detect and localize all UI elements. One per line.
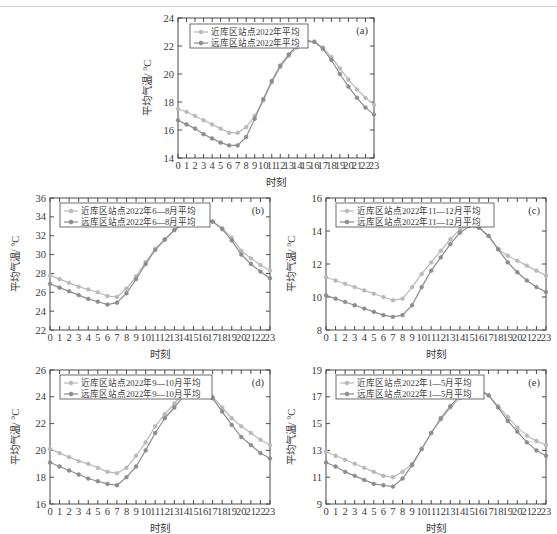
series-marker-far — [134, 465, 138, 469]
series-marker-near — [96, 290, 100, 294]
x-tick-label: 4 — [86, 332, 92, 343]
series-marker-far — [525, 440, 529, 444]
legend-marker-near — [345, 381, 349, 385]
series-marker-near — [535, 439, 539, 443]
series-marker-far — [259, 451, 263, 455]
series-marker-far — [86, 477, 90, 481]
series-marker-far — [220, 227, 224, 231]
series-marker-far — [268, 276, 272, 280]
x-tick-label: 2 — [343, 332, 348, 343]
series-marker-far — [544, 290, 548, 294]
series-marker-far — [230, 239, 234, 243]
series-marker-far — [153, 248, 157, 252]
x-tick-label: 3 — [352, 506, 357, 517]
series-marker-far — [515, 430, 519, 434]
series-line-far — [178, 40, 374, 145]
series-marker-far — [287, 53, 291, 57]
x-tick-label: 8 — [400, 332, 405, 343]
x-tick-label: 3 — [76, 506, 81, 517]
series-marker-far — [353, 474, 357, 478]
y-axis-label: 平均气温/ °C — [9, 409, 21, 466]
y-tick-label: 18 — [164, 97, 175, 108]
x-tick-label: 3 — [76, 332, 81, 343]
series-marker-near — [439, 249, 443, 253]
y-tick-label: 26 — [36, 365, 47, 376]
series-line-far — [326, 226, 546, 317]
y-tick-label: 28 — [36, 268, 47, 279]
y-tick-label: 13 — [312, 445, 323, 456]
x-tick-label: 8 — [244, 160, 249, 171]
series-marker-far — [535, 449, 539, 453]
series-marker-far — [401, 477, 405, 481]
series-marker-far — [176, 118, 180, 122]
series-marker-far — [244, 135, 248, 139]
y-tick-label: 24 — [36, 306, 47, 317]
x-axis-label: 时刻 — [426, 522, 446, 534]
series-marker-far — [96, 479, 100, 483]
series-marker-near — [525, 434, 529, 438]
series-marker-far — [496, 406, 500, 410]
series-marker-far — [249, 443, 253, 447]
series-line-far — [326, 389, 546, 487]
plot-area-a: 1416182022240123456789101112131415161718… — [140, 8, 380, 188]
x-tick-label: 1 — [184, 160, 189, 171]
x-axis-label: 时刻 — [266, 176, 286, 188]
x-tick-label: 23 — [541, 506, 552, 517]
series-marker-far — [410, 303, 414, 307]
chart-panel-e: 9111315171901234567891011121314151617181… — [282, 360, 552, 534]
series-marker-far — [58, 465, 62, 469]
series-marker-far — [381, 313, 385, 317]
page-top-rule — [0, 6, 557, 7]
series-marker-near — [343, 282, 347, 286]
y-tick-label: 18 — [36, 472, 47, 483]
y-tick-label: 16 — [312, 193, 323, 204]
series-marker-far — [48, 282, 52, 286]
series-marker-far — [193, 127, 197, 131]
plot-area-c: 8101214160123456789101112131415161718192… — [282, 188, 552, 360]
series-marker-far — [220, 410, 224, 414]
series-marker-near — [544, 443, 548, 447]
y-tick-label: 20 — [36, 445, 47, 456]
x-tick-label: 8 — [400, 506, 405, 517]
series-marker-far — [312, 40, 316, 44]
x-tick-label: 6 — [227, 160, 232, 171]
series-marker-near — [115, 471, 119, 475]
series-marker-near — [515, 259, 519, 263]
series-marker-near — [372, 292, 376, 296]
panel-tag: (b) — [252, 205, 265, 217]
legend-marker-far — [345, 392, 349, 396]
series-marker-near — [372, 103, 376, 107]
y-tick-label: 22 — [36, 325, 47, 336]
series-marker-far — [544, 454, 548, 458]
series-marker-near — [372, 470, 376, 474]
x-tick-label: 0 — [323, 332, 328, 343]
series-marker-near — [67, 281, 71, 285]
series-marker-far — [355, 96, 359, 100]
series-marker-far — [239, 435, 243, 439]
chart-panel-b: 2224262830323436012345678910111213141516… — [6, 188, 276, 360]
series-marker-far — [125, 475, 129, 479]
series-marker-near — [77, 285, 81, 289]
series-marker-far — [525, 279, 529, 283]
panel-tag: (e) — [528, 377, 540, 389]
series-marker-near — [334, 279, 338, 283]
series-marker-far — [362, 307, 366, 311]
series-line-near — [50, 219, 270, 297]
series-marker-far — [153, 431, 157, 435]
series-marker-near — [134, 454, 138, 458]
x-tick-label: 7 — [114, 506, 119, 517]
plot-area-d: 1618202224260123456789101112131415161718… — [6, 360, 276, 534]
x-tick-label: 23 — [369, 160, 380, 171]
series-marker-far — [338, 72, 342, 76]
series-marker-far — [401, 313, 405, 317]
series-marker-near — [193, 114, 197, 118]
x-tick-label: 4 — [362, 332, 368, 343]
series-marker-far — [324, 461, 328, 465]
series-marker-far — [185, 123, 189, 127]
series-marker-near — [172, 402, 176, 406]
x-tick-label: 0 — [47, 506, 52, 517]
series-marker-far — [163, 238, 167, 242]
series-marker-far — [249, 262, 253, 266]
x-tick-label: 1 — [57, 332, 62, 343]
x-axis-label: 时刻 — [426, 348, 446, 360]
